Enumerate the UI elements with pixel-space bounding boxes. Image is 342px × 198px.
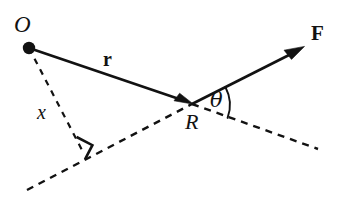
position-vector-r-arrowhead bbox=[174, 93, 194, 104]
application-point-label: R bbox=[185, 111, 198, 133]
angle-label: θ bbox=[210, 90, 223, 111]
force-vector-label: F bbox=[311, 23, 324, 44]
force-vector-F-shaft bbox=[192, 52, 295, 104]
origin-point-dot bbox=[23, 42, 35, 54]
moment-arm-label: x bbox=[37, 102, 46, 122]
physics-diagram: O R x r F θ bbox=[0, 0, 342, 198]
angle-arc bbox=[226, 87, 230, 118]
line-of-action-dashed bbox=[27, 104, 192, 190]
origin-label: O bbox=[14, 13, 31, 36]
position-vector-label: r bbox=[103, 49, 112, 69]
diagram-canvas bbox=[0, 0, 342, 198]
